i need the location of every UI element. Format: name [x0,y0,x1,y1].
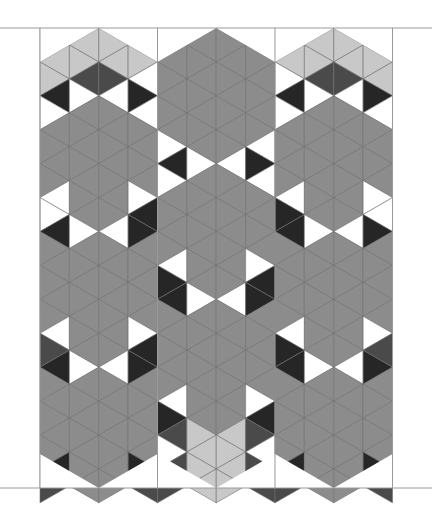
quilt-tiles [40,28,393,503]
quilt-pattern [0,0,432,507]
